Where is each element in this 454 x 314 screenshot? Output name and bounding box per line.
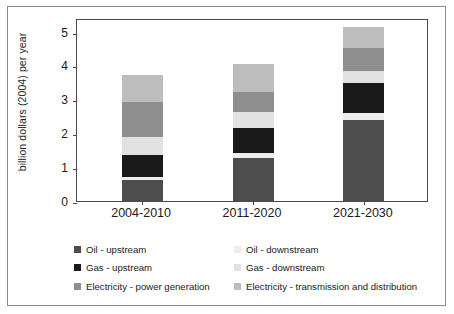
bar-segment	[233, 92, 274, 112]
y-axis-tick-label: 2	[44, 127, 68, 141]
x-axis-tick-mark	[364, 201, 365, 205]
y-axis-tick-label: 5	[44, 26, 68, 40]
legend-item-label: Oil - upstream	[86, 244, 146, 255]
y-axis-tick-mark	[73, 169, 77, 170]
y-axis-tick-label: 4	[44, 59, 68, 73]
legend-column-right: Oil - downstreamGas - downstreamElectric…	[234, 240, 434, 296]
bar-segment	[122, 75, 163, 102]
x-axis-tick-mark	[142, 201, 143, 205]
legend-item: Oil - downstream	[234, 240, 434, 259]
y-axis-tick-mark	[73, 34, 77, 35]
bar-segment	[233, 64, 274, 92]
y-axis-tick-mark	[73, 135, 77, 136]
bar-segment	[343, 27, 384, 48]
legend-swatch-icon	[234, 246, 241, 253]
y-axis-tick-mark	[73, 203, 77, 204]
legend-item-label: Electricity - power generation	[86, 281, 210, 292]
y-axis-tick-label: 1	[44, 161, 68, 175]
legend-swatch-icon	[74, 283, 81, 290]
bar-segment	[122, 180, 163, 201]
legend-swatch-icon	[74, 246, 81, 253]
y-axis-tick-mark	[73, 101, 77, 102]
bar-segment	[343, 120, 384, 201]
bar-2011-2020	[233, 64, 274, 201]
legend-swatch-icon	[234, 283, 241, 290]
legend-column-left: Oil - upstreamGas - upstreamElectricity …	[74, 240, 244, 296]
legend-swatch-icon	[74, 264, 81, 271]
bar-segment	[343, 113, 384, 120]
y-axis-tick-label: 0	[44, 195, 68, 209]
chart-figure: billion dollars (2004) per year Oil - up…	[0, 0, 454, 314]
x-axis-category-label: 2021-2030	[303, 206, 423, 220]
y-axis-title: billion dollars (2004) per year	[16, 12, 28, 192]
bar-segment	[343, 48, 384, 71]
bar-segment	[122, 155, 163, 178]
bar-segment	[122, 137, 163, 155]
y-axis-tick-label: 3	[44, 93, 68, 107]
x-axis-tick-mark	[253, 201, 254, 205]
bar-segment	[343, 71, 384, 83]
y-axis-tick-mark	[73, 67, 77, 68]
x-axis-category-label: 2004-2010	[81, 206, 201, 220]
legend-item: Oil - upstream	[74, 240, 244, 259]
plot-area	[76, 19, 428, 202]
legend-item-label: Oil - downstream	[246, 244, 319, 255]
x-axis-category-label: 2011-2020	[192, 206, 312, 220]
plot-inner	[77, 20, 427, 201]
legend-item-label: Gas - downstream	[246, 262, 324, 273]
legend-item-label: Gas - upstream	[86, 262, 152, 273]
legend-swatch-icon	[234, 264, 241, 271]
bar-2004-2010	[122, 75, 163, 201]
bar-segment	[233, 158, 274, 201]
bar-segment	[233, 112, 274, 129]
legend-item-label: Electricity - transmission and distribut…	[246, 281, 417, 292]
legend-item: Gas - downstream	[234, 259, 434, 278]
legend-item: Electricity - power generation	[74, 277, 244, 296]
bar-segment	[122, 102, 163, 137]
legend-item: Electricity - transmission and distribut…	[234, 277, 434, 296]
legend-item: Gas - upstream	[74, 259, 244, 278]
bar-2021-2030	[343, 27, 384, 201]
chart-legend: Oil - upstreamGas - upstreamElectricity …	[76, 240, 428, 296]
bar-segment	[233, 128, 274, 152]
bar-segment	[343, 83, 384, 112]
